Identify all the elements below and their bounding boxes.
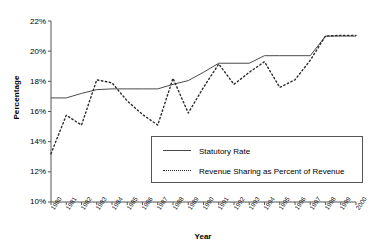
x-tick-label: 1992 xyxy=(232,195,246,211)
legend-item-revenue-sharing: Revenue Sharing as Percent of Revenue xyxy=(162,165,344,177)
x-tick-label: 1997 xyxy=(308,195,322,211)
x-tick-label: 1999 xyxy=(338,195,352,211)
x-tick-label: 1984 xyxy=(110,195,124,211)
legend-swatch-dotted-line-icon xyxy=(162,166,192,176)
x-tick-label: 1988 xyxy=(171,195,185,211)
x-tick-label: 1991 xyxy=(216,195,230,211)
x-tick-label: 1995 xyxy=(277,195,291,211)
x-tick-label: 1981 xyxy=(64,195,78,211)
x-tick-label: 2000 xyxy=(354,195,368,211)
x-axis-tick-labels: 1980198119821983198419851986198719881989… xyxy=(0,0,377,251)
chart-figure: Percentage 22% 20% 18% 16% 14% 12% 10% 1… xyxy=(0,0,377,251)
x-tick-label: 1980 xyxy=(49,195,63,211)
legend-label: Statutory Rate xyxy=(199,147,250,156)
chart-legend: Statutory Rate Revenue Sharing as Percen… xyxy=(151,136,363,183)
x-tick-label: 1983 xyxy=(94,195,108,211)
x-tick-label: 1985 xyxy=(125,195,139,211)
x-tick-label: 1982 xyxy=(79,195,93,211)
legend-label: Revenue Sharing as Percent of Revenue xyxy=(199,167,344,176)
x-tick-label: 1998 xyxy=(323,195,337,211)
x-tick-label: 1996 xyxy=(293,195,307,211)
x-tick-label: 1987 xyxy=(155,195,169,211)
x-tick-label: 1986 xyxy=(140,195,154,211)
x-tick-label: 1989 xyxy=(186,195,200,211)
x-axis-title: Year xyxy=(51,232,355,241)
x-tick-label: 1993 xyxy=(247,195,261,211)
legend-item-statutory-rate: Statutory Rate xyxy=(162,145,250,157)
x-tick-label: 1994 xyxy=(262,195,276,211)
x-tick-label: 1990 xyxy=(201,195,215,211)
legend-swatch-solid-line-icon xyxy=(162,146,192,156)
